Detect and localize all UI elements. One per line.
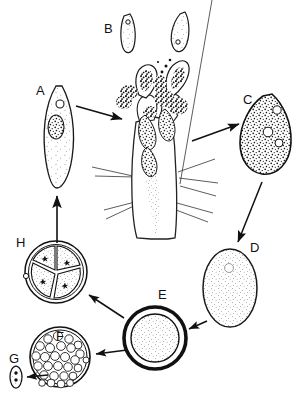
arrow-d-to-e xyxy=(189,321,207,329)
stage-b-merozoite-left xyxy=(121,14,135,53)
stage-b-merozoite-right xyxy=(171,12,189,52)
stage-g-cell xyxy=(10,366,22,388)
stage-d-cell xyxy=(203,249,257,327)
life-cycle-diagram: A B C D E F G H xyxy=(0,0,303,401)
diagram-canvas xyxy=(0,0,303,401)
arrow-e-to-h xyxy=(89,295,124,318)
arrow-c-to-d xyxy=(238,182,262,242)
stage-a-cell xyxy=(44,86,73,188)
stage-label-c: C xyxy=(243,93,252,106)
stage-a-nucleus xyxy=(48,115,64,139)
stage-label-f: F xyxy=(56,330,64,343)
stage-h-cell xyxy=(23,241,87,303)
arrow-villus-to-c xyxy=(192,124,239,141)
stage-label-h: H xyxy=(16,236,25,249)
arrow-a-to-villus xyxy=(76,106,122,119)
arrow-e-to-f xyxy=(96,350,127,354)
stage-label-d: D xyxy=(250,241,259,254)
stage-label-e: E xyxy=(158,288,167,301)
stage-label-b: B xyxy=(104,22,113,35)
stage-label-g: G xyxy=(9,352,19,365)
stage-label-a: A xyxy=(36,84,45,97)
stage-e-cell xyxy=(124,307,186,369)
stage-a-vacuole xyxy=(56,100,64,108)
